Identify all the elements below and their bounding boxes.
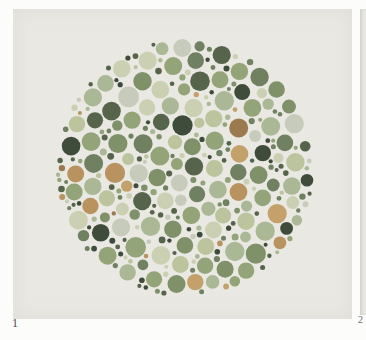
plate-number: 1	[12, 316, 18, 330]
next-plate-edge	[360, 9, 366, 315]
plate-card	[13, 9, 352, 319]
book-page: 1 2	[0, 0, 366, 340]
next-plate-number: 2	[358, 314, 363, 326]
ishihara-dot-circle	[13, 9, 352, 319]
